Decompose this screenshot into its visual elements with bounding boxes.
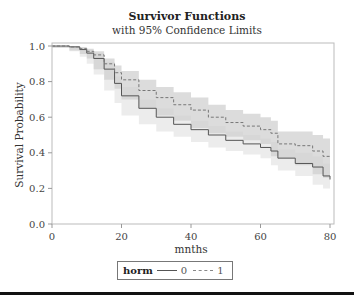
y-axis: 0.00.20.40.60.81.0 bbox=[29, 41, 52, 230]
y-tick-label: 0.2 bbox=[29, 183, 45, 194]
solid-line-icon bbox=[157, 270, 177, 271]
bottom-rule bbox=[0, 292, 354, 295]
legend-item-0: 0 bbox=[157, 265, 187, 276]
x-tick-label: 20 bbox=[115, 231, 128, 242]
x-axis: 020406080 bbox=[49, 224, 337, 242]
x-tick-label: 0 bbox=[49, 231, 55, 242]
y-axis-label: Survival Probability bbox=[13, 82, 25, 188]
y-tick-label: 1.0 bbox=[29, 41, 45, 52]
x-axis-label: mnths bbox=[174, 243, 207, 255]
x-tick-label: 80 bbox=[324, 231, 337, 242]
x-tick-label: 40 bbox=[185, 231, 198, 242]
legend-label-1: 1 bbox=[217, 265, 223, 276]
legend-label-0: 0 bbox=[181, 265, 187, 276]
y-tick-label: 0.4 bbox=[29, 147, 45, 158]
x-tick-label: 60 bbox=[254, 231, 267, 242]
legend-title: horm bbox=[123, 265, 153, 276]
confidence-bands bbox=[52, 46, 330, 188]
legend: horm 0 1 bbox=[117, 261, 233, 280]
y-tick-label: 0.8 bbox=[29, 76, 45, 87]
dashed-line-icon bbox=[193, 270, 213, 271]
y-tick-label: 0.0 bbox=[29, 219, 45, 230]
legend-item-1: 1 bbox=[193, 265, 223, 276]
y-tick-label: 0.6 bbox=[29, 112, 45, 123]
survival-plot: 0.00.20.40.60.81.0 020406080 Survival Pr… bbox=[0, 0, 354, 260]
